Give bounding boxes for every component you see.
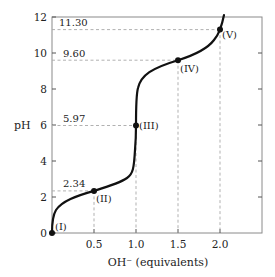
annotation-5-97: 5.97: [63, 113, 85, 124]
point-label-I: (I): [55, 221, 67, 232]
x-tick-0-5: 0.5: [86, 238, 103, 250]
x-axis: [94, 229, 220, 233]
y-tick-8: 8: [40, 83, 47, 95]
point-labels: (I) (II) (III) (IV) (V): [55, 29, 237, 232]
x-tick-2-0: 2.0: [212, 238, 229, 250]
annotation-2-34: 2.34: [63, 178, 85, 189]
point-label-III: (III): [139, 120, 159, 131]
y-tick-12: 12: [34, 11, 47, 23]
y-tick-2: 2: [40, 191, 47, 203]
x-tick-1-0: 1.0: [128, 238, 145, 250]
y-tick-0: 0: [40, 227, 47, 239]
point-label-V: (V): [222, 29, 237, 40]
x-axis-title: OH⁻ (equivalents): [108, 256, 209, 269]
point-label-II: (II): [96, 193, 112, 204]
y-tick-labels: 0 2 4 6 8 10 12: [34, 11, 48, 239]
annotation-9-60: 9.60: [63, 48, 85, 59]
titration-chart: 0 2 4 6 8 10 12 pH 0.5 1.0 1.5 2.0 OH⁻ (…: [0, 0, 275, 277]
value-annotations: 11.30 9.60 5.97 2.34: [59, 17, 88, 189]
annotation-11-30: 11.30: [59, 17, 88, 28]
y-tick-4: 4: [40, 155, 47, 167]
y-axis-title: pH: [14, 119, 31, 132]
y-tick-10: 10: [34, 47, 47, 59]
y-tick-6: 6: [40, 119, 47, 131]
x-tick-labels: 0.5 1.0 1.5 2.0: [86, 238, 229, 250]
x-tick-1-5: 1.5: [170, 238, 187, 250]
point-label-IV: (IV): [180, 63, 199, 74]
